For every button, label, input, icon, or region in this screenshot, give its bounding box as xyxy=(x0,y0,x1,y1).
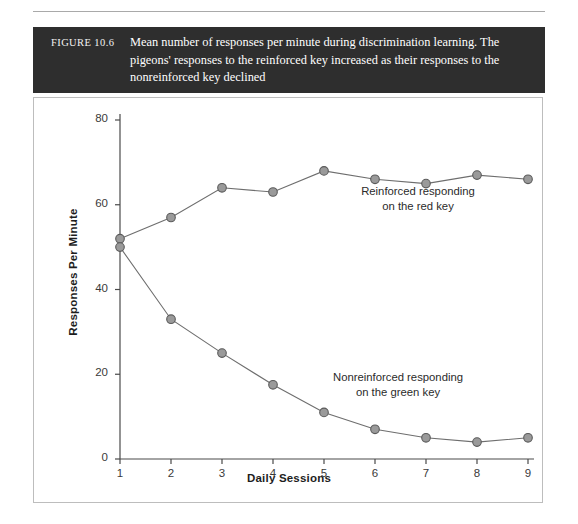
annotation-nonreinforced-line2: on the green key xyxy=(300,385,496,400)
y-tick-label: 60 xyxy=(74,197,108,209)
figure-caption-text: Mean number of responses per minute duri… xyxy=(130,34,532,87)
chart-panel: Responses Per Minute Daily Sessions Rein… xyxy=(33,97,543,503)
y-tick-label: 0 xyxy=(74,451,108,463)
x-axis xyxy=(120,459,534,464)
x-tick-label: 7 xyxy=(414,467,438,479)
top-rule xyxy=(33,11,545,12)
x-tick-label: 9 xyxy=(516,467,540,479)
x-tick-label: 6 xyxy=(363,467,387,479)
chart-plot-area: Responses Per Minute Daily Sessions Rein… xyxy=(34,98,544,504)
x-tick-label: 4 xyxy=(261,467,285,479)
x-tick-label: 8 xyxy=(465,467,489,479)
x-tick-label: 1 xyxy=(108,467,132,479)
annotation-reinforced-line1: Reinforced responding xyxy=(330,184,506,199)
annotation-reinforced-line2: on the red key xyxy=(330,199,506,214)
annotation-reinforced: Reinforced responding on the red key xyxy=(330,184,506,213)
figure-caption-bar: FIGURE 10.6 Mean number of responses per… xyxy=(33,27,545,93)
line-chart-graphic xyxy=(34,98,544,504)
y-tick-label: 40 xyxy=(74,282,108,294)
annotation-nonreinforced: Nonreinforced responding on the green ke… xyxy=(300,370,496,399)
x-tick-label: 2 xyxy=(159,467,183,479)
annotation-nonreinforced-line1: Nonreinforced responding xyxy=(300,370,496,385)
x-tick-label: 5 xyxy=(312,467,336,479)
y-tick-label: 80 xyxy=(74,112,108,124)
y-axis-title: Responses Per Minute xyxy=(67,197,79,347)
y-tick-label: 20 xyxy=(74,366,108,378)
figure-number-label: FIGURE 10.6 xyxy=(51,37,114,48)
y-axis xyxy=(115,114,120,459)
x-tick-label: 3 xyxy=(210,467,234,479)
